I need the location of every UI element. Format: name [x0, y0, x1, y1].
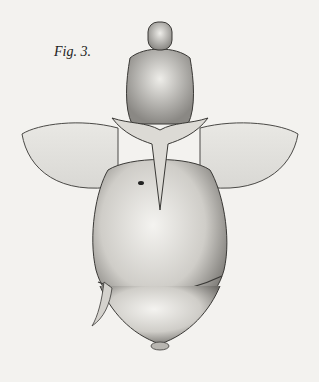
specimen-drawing	[0, 0, 319, 382]
figure-label: Fig. 3.	[54, 44, 91, 60]
illustration-plate: Fig. 3.	[0, 0, 319, 382]
